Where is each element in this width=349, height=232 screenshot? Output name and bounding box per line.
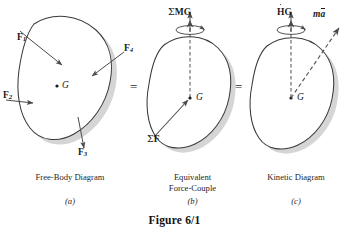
caption-c-line1: Kinetic Diagram xyxy=(267,172,325,182)
center-of-mass-label-c: G xyxy=(297,93,304,103)
caption-b-line1: Equivalent xyxy=(174,172,211,182)
center-of-mass-label-b: G xyxy=(196,93,203,103)
force-3-label: F3 xyxy=(78,148,87,158)
spin-rotation-arrow-c xyxy=(301,27,306,30)
caption-b-line2: Force-Couple xyxy=(140,183,245,194)
center-of-mass-dot-a xyxy=(55,84,58,87)
resultant-force-label-b: ΣF xyxy=(147,129,160,145)
center-of-mass-dot-b xyxy=(188,96,191,99)
caption-panel-a: Free-Body Diagram xyxy=(4,172,136,183)
subcaption-panel-b: (b) xyxy=(140,196,245,206)
force-4-label: F4 xyxy=(124,44,133,54)
equals-sign-1: = xyxy=(130,79,137,95)
caption-panel-b: Equivalent Force-Couple xyxy=(140,172,245,195)
free-body-diagram-svg xyxy=(0,0,140,160)
force-2-label: F2 xyxy=(3,91,12,101)
subcaption-panel-a: (a) xyxy=(4,196,136,206)
caption-panel-c: Kinetic Diagram xyxy=(246,172,346,183)
subcaption-panel-c: (c) xyxy=(246,196,346,206)
figure-6-1: F1 F2 F3 F4 G xyxy=(0,0,349,232)
kinetic-diagram-svg xyxy=(245,0,349,160)
couple-rotation-arrow-b xyxy=(200,27,205,30)
figure-title: Figure 6/1 xyxy=(0,214,349,226)
inertia-vector-label-c: ma xyxy=(313,4,325,20)
moment-label-b: ΣMG xyxy=(168,2,191,18)
caption-a-line1: Free-Body Diagram xyxy=(36,172,105,182)
angular-momentum-label-c: HG xyxy=(277,2,292,18)
panel-equivalent-force-couple: ΣMG ΣF G xyxy=(140,0,245,160)
equals-sign-2: = xyxy=(235,79,242,95)
force-1-label: F1 xyxy=(17,33,26,43)
panel-free-body-diagram: F1 F2 F3 F4 G xyxy=(0,0,140,160)
center-of-mass-label-a: G xyxy=(62,81,69,91)
panel-kinetic-diagram: HG ma G xyxy=(245,0,349,160)
